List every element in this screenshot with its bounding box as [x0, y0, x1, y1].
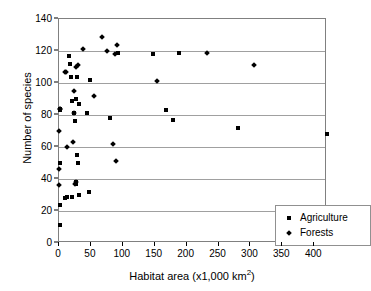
data-point [67, 54, 71, 58]
x-tick-mark-200 [186, 242, 187, 246]
x-axis-title: Habitat area (x1,000 km2) [58, 268, 326, 282]
data-point [64, 144, 70, 150]
legend-label-forests: Forests [300, 227, 333, 238]
data-point [171, 118, 175, 122]
data-point [56, 183, 62, 189]
data-point [76, 161, 80, 165]
data-point [58, 161, 62, 165]
y-tick-label-120: 120 [22, 45, 52, 56]
square-marker-icon [282, 216, 296, 220]
x-tick-mark-150 [154, 242, 155, 246]
data-point [177, 51, 181, 55]
y-tick-label-80: 80 [22, 109, 52, 120]
x-tick-mark-300 [249, 242, 250, 246]
data-point [70, 195, 74, 199]
data-point [110, 141, 116, 147]
data-point [77, 193, 81, 197]
data-point [114, 159, 120, 165]
diamond-marker-icon [282, 231, 296, 235]
x-tick-mark-250 [218, 242, 219, 246]
data-point [56, 128, 62, 134]
y-tick-mark-100 [54, 82, 58, 83]
data-point [75, 75, 79, 79]
y-tick-label-60: 60 [22, 141, 52, 152]
plot-area: Agriculture Forests [58, 18, 326, 242]
gridline-y-100 [59, 83, 325, 84]
y-tick-label-40: 40 [22, 173, 52, 184]
data-point [77, 102, 81, 106]
data-point [75, 153, 79, 157]
gridline-y-60 [59, 147, 325, 148]
y-tick-mark-120 [54, 50, 58, 51]
data-point [91, 93, 97, 99]
data-point [114, 42, 120, 48]
data-point [68, 62, 72, 66]
legend-label-agriculture: Agriculture [300, 212, 348, 223]
data-point [108, 116, 112, 120]
data-point [70, 139, 76, 145]
x-tick-mark-350 [281, 242, 282, 246]
gridline-y-40 [59, 179, 325, 180]
data-point [73, 119, 77, 123]
y-tick-label-0: 0 [22, 237, 52, 248]
data-point [251, 63, 257, 69]
y-tick-label-20: 20 [22, 205, 52, 216]
data-point [151, 52, 155, 56]
y-tick-mark-20 [54, 210, 58, 211]
data-point [164, 108, 168, 112]
y-tick-label-100: 100 [22, 77, 52, 88]
data-point [100, 34, 106, 40]
data-point [87, 190, 91, 194]
x-tick-label-400: 400 [293, 248, 333, 259]
x-tick-mark-50 [90, 242, 91, 246]
data-point [70, 99, 74, 103]
x-axis-title-base: Habitat area (x1,000 km [129, 270, 246, 282]
y-tick-mark-80 [54, 114, 58, 115]
x-tick-mark-100 [122, 242, 123, 246]
gridline-y-80 [59, 115, 325, 116]
y-tick-label-140: 140 [22, 13, 52, 24]
y-tick-mark-40 [54, 178, 58, 179]
x-axis-title-tail: ) [251, 270, 255, 282]
legend-item-forests: Forests [282, 225, 364, 240]
data-point [236, 126, 240, 130]
x-tick-mark-0 [58, 242, 59, 246]
data-point [71, 88, 77, 94]
data-point [88, 78, 92, 82]
y-tick-mark-60 [54, 146, 58, 147]
data-point [58, 203, 62, 207]
data-point [104, 48, 110, 54]
data-point [58, 223, 62, 227]
data-point [325, 132, 329, 136]
data-point [65, 195, 69, 199]
data-point [63, 69, 69, 75]
x-tick-mark-400 [313, 242, 314, 246]
data-point [85, 111, 89, 115]
data-point [69, 75, 73, 79]
data-point [74, 97, 78, 101]
data-point [56, 167, 62, 173]
legend-item-agriculture: Agriculture [282, 210, 364, 225]
gridline-y-120 [59, 51, 325, 52]
y-tick-mark-140 [54, 18, 58, 19]
legend: Agriculture Forests [275, 205, 371, 246]
